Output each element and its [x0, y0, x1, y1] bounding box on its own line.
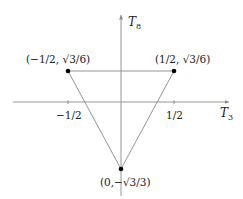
x-tick-label-neg-half: −1/2 — [56, 109, 82, 121]
point-left — [66, 69, 71, 74]
point-bottom — [119, 167, 124, 172]
point-right — [172, 69, 177, 74]
x-tick-label-pos-half: 1/2 — [166, 109, 183, 121]
x-axis-subscript: 3 — [228, 113, 233, 122]
y-axis-subscript: 8 — [136, 22, 141, 31]
point-bottom-label: (0,−√3/3) — [100, 176, 151, 188]
point-left-label: (−1/2, √3/6) — [26, 53, 90, 65]
point-right-label: (1/2, √3/6) — [155, 53, 210, 65]
weight-diagram: (−1/2, √3/6) (1/2, √3/6) (0,−√3/3) −1/2 … — [0, 0, 243, 199]
